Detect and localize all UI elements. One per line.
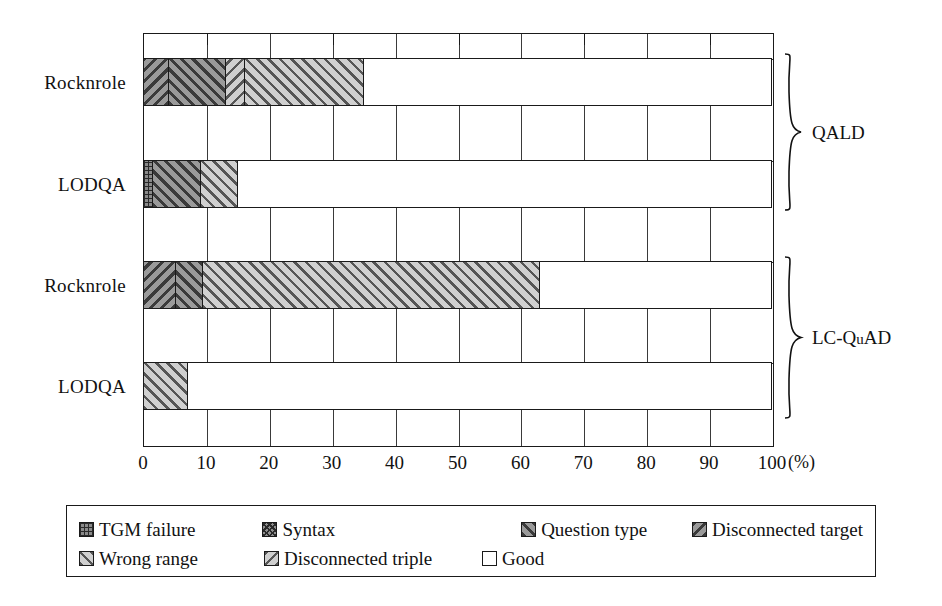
legend-swatch-syntax-icon — [262, 522, 277, 537]
x-tick-70: 70 — [574, 452, 593, 474]
legend-label-disconnected-triple: Disconnected triple — [284, 549, 432, 568]
bar-lcquad-lodqa — [143, 362, 772, 410]
segment-question-type — [169, 59, 226, 105]
segment-good — [364, 59, 771, 105]
segment-wrong-range — [144, 363, 188, 409]
x-tick-0: 0 — [138, 452, 148, 474]
legend-item-disconnected-target: Disconnected target — [692, 520, 863, 539]
legend-label-tgm-failure: TGM failure — [99, 520, 196, 539]
segment-disconnected-triple — [226, 59, 245, 105]
group-label-lcquad-tail: AD — [864, 327, 891, 348]
category-label-qald-lodqa: LODQA — [0, 174, 135, 196]
legend-label-syntax: Syntax — [282, 520, 335, 539]
legend-label-question-type: Question type — [541, 520, 647, 539]
legend: TGM failure Syntax Question type Disconn… — [66, 505, 876, 577]
x-tick-100: 100 — [758, 452, 787, 474]
bar-lcquad-rocknrole — [143, 261, 772, 309]
group-label-lcquad: LC-QuAD — [812, 327, 891, 349]
group-label-qald: QALD — [812, 122, 865, 144]
legend-swatch-question-type-icon — [521, 522, 536, 537]
category-label-qald-rocknrole: Rocknrole — [0, 72, 135, 94]
legend-swatch-wrong-range-icon — [79, 551, 94, 566]
tick-top-70 — [584, 34, 585, 45]
x-tick-30: 30 — [322, 452, 341, 474]
segment-good — [188, 363, 771, 409]
tick-top-50 — [459, 34, 460, 45]
legend-item-disconnected-triple: Disconnected triple — [264, 549, 482, 568]
legend-label-good: Good — [502, 549, 544, 568]
legend-item-good: Good — [482, 549, 544, 568]
legend-item-tgm-failure: TGM failure — [79, 520, 262, 539]
group-brace-qald — [782, 52, 804, 212]
segment-tgm-failure — [144, 161, 153, 207]
x-tick-50: 50 — [448, 452, 467, 474]
legend-label-disconnected-target: Disconnected target — [712, 520, 863, 539]
segment-wrong-range — [203, 262, 541, 308]
legend-swatch-disconnected-target-icon — [692, 522, 707, 537]
group-brace-lcquad — [782, 255, 804, 420]
segment-question-type — [153, 161, 200, 207]
x-tick-20: 20 — [259, 452, 278, 474]
tick-top-90 — [710, 34, 711, 45]
x-tick-90: 90 — [700, 452, 719, 474]
x-tick-10: 10 — [196, 452, 215, 474]
bar-qald-lodqa — [143, 160, 772, 208]
segment-good — [238, 161, 771, 207]
legend-swatch-tgm-failure-icon — [79, 522, 94, 537]
x-tick-80: 80 — [637, 452, 656, 474]
x-tick-60: 60 — [511, 452, 530, 474]
category-label-lcquad-lodqa: LODQA — [0, 376, 135, 398]
tick-top-10 — [207, 34, 208, 45]
legend-swatch-good-icon — [482, 551, 497, 566]
x-axis-unit-label: (%) — [788, 452, 815, 473]
legend-row-1: TGM failure Syntax Question type Disconn… — [79, 515, 863, 544]
group-label-lcquad-smallcap: u — [856, 331, 864, 347]
legend-label-wrong-range: Wrong range — [99, 549, 198, 568]
legend-item-syntax: Syntax — [262, 520, 521, 539]
x-tick-40: 40 — [385, 452, 404, 474]
segment-good — [540, 262, 771, 308]
legend-item-wrong-range: Wrong range — [79, 549, 264, 568]
group-label-lcquad-main: LC-Q — [812, 327, 856, 348]
stacked-bar-chart: Rocknrole LODQA Rocknrole LODQA 0 10 20 … — [0, 0, 942, 606]
legend-swatch-disconnected-triple-icon — [264, 551, 279, 566]
legend-item-question-type: Question type — [521, 520, 692, 539]
tick-top-30 — [333, 34, 334, 45]
segment-question-type — [176, 262, 203, 308]
category-label-lcquad-rocknrole: Rocknrole — [0, 275, 135, 297]
segment-wrong-range — [201, 161, 239, 207]
legend-row-2: Wrong range Disconnected triple Good — [79, 544, 863, 573]
segment-wrong-range — [245, 59, 365, 105]
segment-disconnected-target — [144, 262, 176, 308]
bar-qald-rocknrole — [143, 58, 772, 106]
segment-disconnected-target — [144, 59, 169, 105]
